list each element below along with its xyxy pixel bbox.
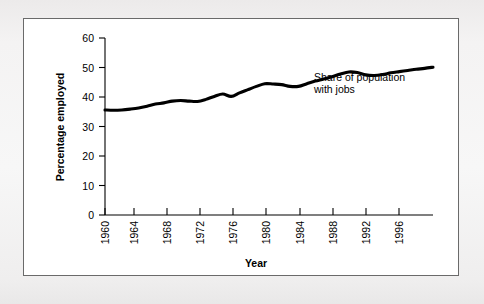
x-tick-label-1972: 1972 <box>194 221 206 245</box>
x-tick-label-1964: 1964 <box>128 221 140 245</box>
x-tick-label-1992: 1992 <box>360 221 372 245</box>
chart-plot-area: 60 50 40 30 20 10 0 <box>24 19 460 277</box>
x-tick-label-1968: 1968 <box>161 221 173 245</box>
x-tick-label-1996: 1996 <box>393 221 405 245</box>
annotation-line-2: with jobs <box>313 83 355 95</box>
y-tick-label-50: 50 <box>82 62 94 74</box>
y-axis-title: Percentage employed <box>54 73 66 182</box>
x-tick-label-1976: 1976 <box>227 221 239 245</box>
chart-axes <box>105 38 433 215</box>
series-annotation: Share of population with jobs <box>313 71 405 95</box>
x-tick-label-1980: 1980 <box>260 221 272 245</box>
y-tick-label-0: 0 <box>88 209 94 221</box>
line-chart-svg: 60 50 40 30 20 10 0 <box>24 19 460 277</box>
y-axis-ticks: 60 50 40 30 20 10 0 <box>82 32 105 221</box>
annotation-line-1: Share of population <box>314 71 405 83</box>
x-tick-label-1988: 1988 <box>327 221 339 245</box>
x-axis-title: Year <box>245 257 267 269</box>
x-tick-label-1984: 1984 <box>294 221 306 245</box>
figure-panel: 60 50 40 30 20 10 0 <box>23 18 459 276</box>
y-tick-label-20: 20 <box>82 150 94 162</box>
x-axis-ticks: 1960 1964 1968 1972 1976 1980 1984 1988 … <box>99 208 405 244</box>
y-tick-label-30: 30 <box>82 121 94 133</box>
x-tick-label-1960: 1960 <box>99 221 111 245</box>
screenshot-root: 60 50 40 30 20 10 0 <box>0 0 484 304</box>
y-tick-label-60: 60 <box>82 32 94 44</box>
y-tick-label-10: 10 <box>82 180 94 192</box>
y-tick-label-40: 40 <box>82 91 94 103</box>
